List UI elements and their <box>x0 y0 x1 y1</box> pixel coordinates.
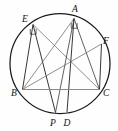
segment-BF <box>23 44 102 90</box>
vertex-label-E: E <box>21 14 28 24</box>
vertex-label-B: B <box>11 88 17 98</box>
vertex-label-D: D <box>63 118 71 128</box>
geometry-figure: EAFBCPD <box>0 0 118 131</box>
vertex-label-P: P <box>49 118 56 128</box>
circumscribed-circle <box>10 14 110 114</box>
segment-AD <box>67 19 74 113</box>
vertex-label-F: F <box>102 36 109 46</box>
geometry-canvas: EAFBCPD <box>0 0 118 131</box>
segment-FC <box>100 44 102 90</box>
segments-layer <box>23 19 102 113</box>
vertex-label-A: A <box>71 4 78 14</box>
segment-EP <box>33 25 56 113</box>
vertex-label-C: C <box>103 88 110 98</box>
